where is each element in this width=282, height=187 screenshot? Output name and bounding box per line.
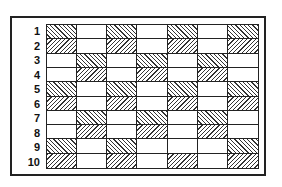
- hatched-cell-forward: [77, 125, 107, 139]
- blank-cell: [198, 97, 228, 111]
- hatched-cell-forward: [168, 39, 198, 53]
- hatched-cell-forward: [198, 68, 228, 82]
- hatch-grid: [46, 24, 259, 169]
- hatched-cell-forward: [47, 39, 77, 53]
- hatched-cell-forward: [198, 125, 228, 139]
- hatched-cell-backslash: [77, 54, 107, 68]
- blank-cell: [47, 54, 77, 68]
- row-label: 2: [20, 39, 40, 54]
- hatched-cell-backslash: [137, 54, 167, 68]
- blank-cell: [77, 139, 107, 153]
- row-label: 9: [20, 140, 40, 155]
- blank-cell: [137, 39, 167, 53]
- blank-cell: [77, 154, 107, 168]
- blank-cell: [168, 54, 198, 68]
- hatched-cell-forward: [228, 154, 258, 168]
- hatched-cell-forward: [137, 125, 167, 139]
- blank-cell: [107, 125, 137, 139]
- hatched-cell-backslash: [168, 25, 198, 39]
- hatched-cell-backslash: [107, 82, 137, 96]
- hatched-cell-forward: [107, 154, 137, 168]
- hatched-cell-forward: [168, 154, 198, 168]
- hatched-cell-forward: [77, 68, 107, 82]
- blank-cell: [198, 154, 228, 168]
- blank-cell: [198, 139, 228, 153]
- blank-cell: [137, 82, 167, 96]
- blank-cell: [137, 139, 167, 153]
- blank-cell: [168, 125, 198, 139]
- blank-cell: [137, 25, 167, 39]
- hatched-cell-backslash: [47, 25, 77, 39]
- hatched-cell-forward: [168, 97, 198, 111]
- blank-cell: [168, 111, 198, 125]
- blank-cell: [228, 111, 258, 125]
- hatched-cell-forward: [107, 39, 137, 53]
- blank-cell: [77, 25, 107, 39]
- blank-cell: [198, 39, 228, 53]
- hatched-cell-forward: [107, 97, 137, 111]
- hatched-cell-backslash: [107, 25, 137, 39]
- hatched-cell-forward: [228, 97, 258, 111]
- blank-cell: [107, 68, 137, 82]
- hatched-cell-backslash: [228, 139, 258, 153]
- blank-cell: [168, 139, 198, 153]
- blank-cell: [107, 111, 137, 125]
- blank-cell: [137, 97, 167, 111]
- blank-cell: [47, 125, 77, 139]
- hatched-cell-backslash: [198, 54, 228, 68]
- blank-cell: [228, 125, 258, 139]
- hatched-cell-backslash: [47, 82, 77, 96]
- blank-cell: [107, 54, 137, 68]
- hatched-cell-backslash: [137, 111, 167, 125]
- blank-cell: [77, 39, 107, 53]
- blank-cell: [47, 111, 77, 125]
- blank-cell: [198, 82, 228, 96]
- hatched-cell-backslash: [198, 111, 228, 125]
- hatched-cell-backslash: [228, 82, 258, 96]
- row-label: 5: [20, 82, 40, 97]
- blank-cell: [228, 54, 258, 68]
- hatched-cell-backslash: [168, 82, 198, 96]
- row-label: 3: [20, 53, 40, 68]
- blank-cell: [47, 68, 77, 82]
- blank-cell: [168, 68, 198, 82]
- blank-cell: [77, 82, 107, 96]
- hatched-cell-backslash: [107, 139, 137, 153]
- row-label: 4: [20, 68, 40, 83]
- blank-cell: [198, 25, 228, 39]
- row-label: 10: [20, 155, 40, 170]
- row-label: 8: [20, 126, 40, 141]
- hatched-cell-backslash: [228, 25, 258, 39]
- hatched-cell-forward: [137, 68, 167, 82]
- hatched-cell-backslash: [77, 111, 107, 125]
- row-label: 6: [20, 97, 40, 112]
- hatched-cell-backslash: [47, 139, 77, 153]
- row-label: 7: [20, 111, 40, 126]
- hatched-cell-forward: [228, 39, 258, 53]
- hatched-cell-forward: [47, 97, 77, 111]
- row-label: 1: [20, 24, 40, 39]
- blank-cell: [77, 97, 107, 111]
- blank-cell: [228, 68, 258, 82]
- hatched-cell-forward: [47, 154, 77, 168]
- blank-cell: [137, 154, 167, 168]
